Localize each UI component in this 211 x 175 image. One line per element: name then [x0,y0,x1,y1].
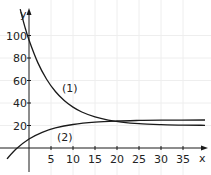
x-tick-label: 35 [176,153,190,166]
y-tick-label: 80 [13,52,27,65]
y-tick-label: 40 [13,97,27,110]
x-tick-label: 30 [154,153,168,166]
chart: 5101520253035 20406080100 x y (1) (2) [0,0,211,175]
x-axis-label: x [199,152,206,165]
x-ticks: 5101520253035 [48,146,191,166]
curve-2-label: (2) [57,131,73,144]
curves [7,9,205,159]
y-tick-label: 100 [6,30,27,43]
x-tick-label: 5 [48,153,55,166]
y-tick-label: 20 [13,120,27,133]
axes [0,8,208,172]
x-tick-label: 10 [66,153,80,166]
x-tick-label: 15 [88,153,102,166]
y-axis-arrow-icon [27,8,32,15]
y-axis-label: y [20,8,27,21]
background-grid [0,0,211,175]
x-tick-label: 20 [110,153,124,166]
curve-1 [20,9,205,125]
x-axis-arrow-icon [201,146,208,151]
y-tick-label: 60 [13,75,27,88]
x-tick-label: 25 [132,153,146,166]
curve-1-label: (1) [62,82,78,95]
